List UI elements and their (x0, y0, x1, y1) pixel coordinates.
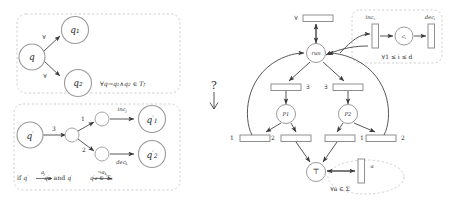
arc-p1-to-t2 (291, 123, 296, 132)
transition-p2-2[interactable] (366, 135, 396, 142)
transition-p1-1[interactable] (240, 135, 270, 142)
figure-svg: q q₁ q₂ ∀ ∀ ∀q→q1∧q2 ∈ Tf q′ q′1 (0, 0, 452, 202)
transition-exists-left[interactable] (271, 84, 301, 91)
arc-p1-to-t1 (266, 123, 281, 132)
transition-label-dec: deck (116, 159, 127, 165)
edge-branch-to-n2 (78, 139, 94, 151)
connector-question-mark: ? (211, 79, 217, 92)
arc-run-to-inc (340, 34, 370, 53)
place-p2-label: P2 (344, 111, 352, 117)
edge-label-2: 2 (82, 146, 86, 153)
arc-p2-to-t1 (337, 123, 343, 132)
petri-net: run ∀ inci ci deci ∀1 ≤ i ≤ d ∃ ∃ (230, 10, 442, 194)
node-inc-source[interactable] (95, 112, 109, 126)
arc-t-p1-2-to-top (296, 142, 310, 162)
transition-dec-label: deci (425, 14, 435, 20)
place-run-label: run (311, 50, 320, 56)
transition-inc[interactable] (372, 24, 379, 48)
caption-arrow-right-label: ¬ak (97, 169, 107, 175)
node-q1-label: q₁ (70, 25, 79, 35)
node-dec-source[interactable] (95, 147, 109, 161)
transition-exists-right-label: ∃ (324, 83, 327, 90)
arc-p2-to-t2 (354, 123, 375, 132)
place-top-label: ⊤ (312, 167, 319, 176)
alphabet-gadget-annotation: ∀a ∈ Σ (330, 185, 350, 192)
transition-forall[interactable] (303, 15, 333, 22)
arc-t1-to-run-left (247, 53, 304, 135)
transition-exists-left-label: ∃ (306, 83, 309, 90)
transition-p1-2-label: 2 (271, 134, 275, 141)
edge-label-forall-upper: ∀ (42, 33, 46, 40)
transition-inc-label: inci (365, 14, 374, 20)
arc-t2-to-run-right (328, 53, 389, 135)
edge-label-forall-lower: ∀ (43, 72, 47, 79)
transition-p1-1-label: 1 (230, 134, 234, 141)
figure-canvas: q q₁ q₂ ∀ ∀ ∀q→q1∧q2 ∈ Tf q′ q′1 (0, 0, 452, 202)
transition-p2-1[interactable] (325, 135, 355, 142)
transition-p1-2[interactable] (281, 135, 311, 142)
existential-rule-caption: if q′ q′1 and q′ q′2 ∈ Ta aj ¬ak (17, 169, 113, 181)
node-branch-point[interactable] (65, 128, 79, 142)
transition-a[interactable] (358, 159, 365, 183)
counter-gadget-annotation: ∀1 ≤ i ≤ d (382, 53, 413, 60)
edge-branch-to-n1 (78, 122, 94, 131)
transition-label-inc: incj (118, 106, 128, 112)
transition-p2-2-label: 2 (401, 134, 405, 141)
transition-exists-right[interactable] (333, 84, 363, 91)
edge-label-1: 1 (81, 115, 85, 122)
arc-inc-to-run (326, 46, 368, 55)
transition-dec[interactable] (428, 24, 435, 48)
arc-run-to-exists-right (323, 62, 344, 81)
universal-rule-box: q q₁ q₂ ∀ ∀ ∀q→q1∧q2 ∈ Tf (17, 14, 180, 97)
transition-p2-1-label: 1 (360, 134, 364, 141)
connector-arrow-icon (210, 92, 218, 109)
arc-run-to-exists-left (289, 62, 310, 81)
transition-a-label: a (370, 163, 373, 169)
existential-rule-box: q′ q′1 q′2 3 1 2 incj deck if q′ q′1 and… (14, 104, 180, 190)
node-q2-label: q₂ (73, 78, 83, 88)
node-q-label: q (29, 52, 35, 62)
arc-t-p2-1-to-top (323, 142, 337, 162)
place-p1-label: P1 (282, 111, 290, 117)
transition-forall-label: ∀ (294, 14, 298, 21)
edge-label-3: 3 (52, 125, 56, 132)
connector-question-arrow: ? (210, 79, 218, 109)
universal-rule-caption: ∀q→q1∧q2 ∈ Tf (100, 80, 146, 88)
